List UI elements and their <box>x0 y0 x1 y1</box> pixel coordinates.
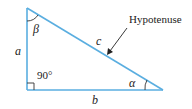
arrowhead-icon <box>107 48 113 55</box>
hypotenuse-arrow <box>110 28 127 51</box>
alpha-arc <box>145 80 147 90</box>
side-b-label: b <box>92 93 98 107</box>
beta-arc <box>27 15 38 21</box>
angle-beta-label: β <box>32 22 39 36</box>
side-a-label: a <box>15 44 21 58</box>
right-triangle-diagram: β a c 90° α b Hypotenuse <box>0 0 192 109</box>
angle-alpha-label: α <box>129 76 136 90</box>
hypotenuse-label: Hypotenuse <box>129 13 182 25</box>
right-angle-label: 90° <box>37 69 52 81</box>
side-c-label: c <box>96 34 102 48</box>
right-angle-marker <box>27 83 34 90</box>
